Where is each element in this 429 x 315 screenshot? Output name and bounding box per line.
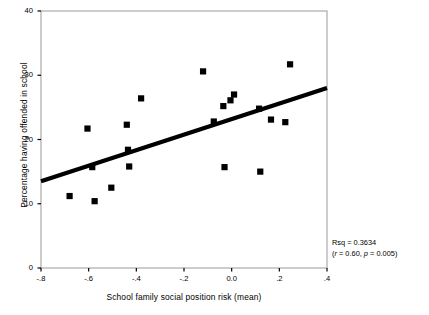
data-point xyxy=(92,198,98,204)
data-point xyxy=(257,169,263,175)
data-point xyxy=(126,163,132,169)
data-point xyxy=(138,95,144,101)
y-tick-label: 30 xyxy=(11,70,33,79)
data-point xyxy=(256,106,262,112)
rsq-line: Rsq = 0.3634 xyxy=(332,238,397,249)
y-tick-label: 20 xyxy=(11,135,33,144)
y-tick-label: 10 xyxy=(11,199,33,208)
data-point xyxy=(221,164,227,170)
x-tick-label: -.6 xyxy=(74,274,104,283)
correlation-line: (r = 0.60, p = 0.005) xyxy=(332,249,397,260)
data-point xyxy=(124,122,130,128)
r-value: = 0.60, xyxy=(337,249,364,258)
data-point xyxy=(67,193,73,199)
y-tick-label: 0 xyxy=(11,263,33,272)
figure-container: Percentage having offended in school Sch… xyxy=(0,0,429,315)
data-point xyxy=(125,147,131,153)
x-tick-label: .4 xyxy=(312,274,342,283)
scatter-plot-canvas xyxy=(0,0,429,315)
x-tick-label: -.2 xyxy=(169,274,199,283)
data-point xyxy=(227,97,233,103)
data-point xyxy=(282,119,288,125)
x-tick-label: 0.0 xyxy=(217,274,247,283)
x-axis-title: School family social position risk (mean… xyxy=(41,292,327,302)
data-point xyxy=(268,116,274,122)
p-value: = 0.005) xyxy=(368,249,397,258)
x-tick-label: .2 xyxy=(264,274,294,283)
data-point xyxy=(84,125,90,131)
data-point xyxy=(200,68,206,74)
data-point xyxy=(211,118,217,124)
data-point xyxy=(220,103,226,109)
data-point xyxy=(108,185,114,191)
data-point xyxy=(231,91,237,97)
y-tick-label: 40 xyxy=(11,6,33,15)
x-tick-label: -.4 xyxy=(121,274,151,283)
x-tick-label: -.8 xyxy=(26,274,56,283)
data-point xyxy=(287,61,293,67)
statistics-annotation: Rsq = 0.3634 (r = 0.60, p = 0.005) xyxy=(332,238,397,259)
plot-frame xyxy=(41,11,327,268)
data-point xyxy=(89,164,95,170)
